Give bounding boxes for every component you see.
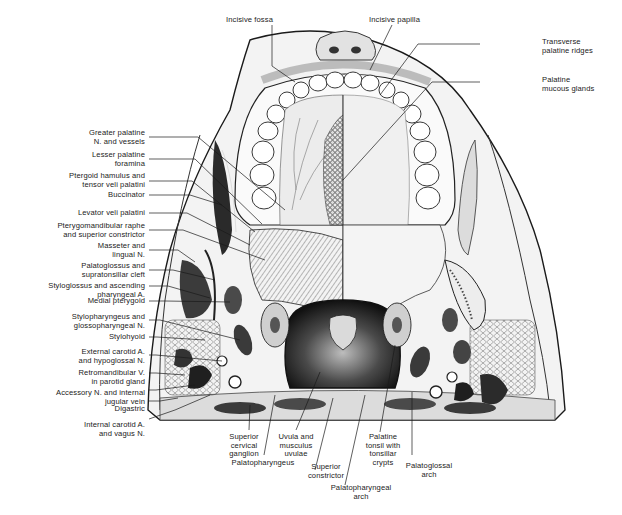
label-levator-veli-palatini: Levator veli palatini bbox=[78, 209, 145, 218]
label-greater-palatine: Greater palatine N. and vessels bbox=[89, 129, 145, 146]
label-stylopharyngeus: Stylopharyngeus and glossopharyngeal N. bbox=[72, 313, 145, 330]
label-stylohyoid: Stylohyoid bbox=[109, 333, 145, 342]
label-palatopharyngeal-arch: Palatopharyngeal arch bbox=[322, 484, 400, 501]
label-medial-pterygoid: Medial pterygoid bbox=[88, 297, 145, 306]
label-retromandibular-v: Retromandibular V. in parotid gland bbox=[78, 369, 145, 386]
label-masseter-lingual: Masseter and lingual N. bbox=[98, 242, 145, 259]
label-superior-cervical-ganglion: Superior cervical ganglion bbox=[218, 433, 270, 459]
label-pterygomandibular-raphe: Pterygomandibular raphe and superior con… bbox=[57, 222, 145, 239]
label-palatoglossus: Palatoglossus and supratonsillar cleft bbox=[81, 262, 145, 279]
label-incisive-papilla: Incisive papilla bbox=[369, 16, 420, 25]
label-external-carotid: External carotid A. and hypoglossal N. bbox=[79, 348, 145, 365]
label-internal-carotid: Internal carotid A. and vagus N. bbox=[84, 421, 145, 438]
label-ptergoid-hamulus: Ptergoid hamulus and tensor veli palatin… bbox=[69, 172, 145, 189]
label-palatopharyngeus: Palatopharyngeus bbox=[222, 459, 304, 468]
label-superior-constrictor: Superior constrictor bbox=[300, 463, 352, 480]
label-digastric: Digastric bbox=[115, 405, 145, 414]
label-incisive-fossa: Incisive fossa bbox=[226, 16, 273, 25]
label-palatoglossal-arch: Palatoglossal arch bbox=[399, 462, 459, 479]
label-transverse-palatine-ridges: Transverse palatine ridges bbox=[542, 38, 593, 55]
anatomy-figure: Incisive fossa Incisive papilla Transver… bbox=[0, 0, 622, 515]
label-lesser-palatine-foramina: Lesser palatine foramina bbox=[92, 151, 145, 168]
label-palatine-mucous-glands: Palatine mucous glands bbox=[542, 76, 594, 93]
label-buccinator: Buccinator bbox=[108, 191, 145, 200]
label-uvula: Uvula and musculus uvulae bbox=[270, 433, 322, 459]
